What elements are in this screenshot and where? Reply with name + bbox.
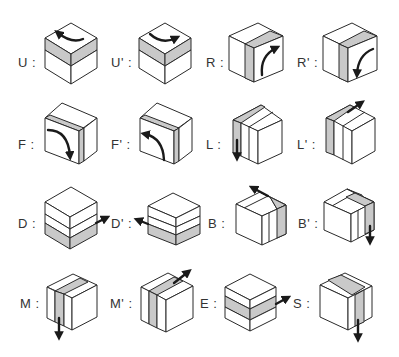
cube-b [236, 188, 286, 245]
cube-m [47, 274, 97, 336]
notation-diagram: U : U' : R : R' : F : F' : L : L' : D : … [0, 0, 399, 357]
cube-b-prime [324, 189, 374, 242]
arrow-right-icon [276, 298, 287, 304]
cube-l [233, 105, 282, 164]
cube-r-prime [323, 23, 377, 82]
cube-m-prime [141, 272, 193, 332]
cube-f-prime [140, 103, 192, 164]
cube-u [45, 23, 97, 84]
cube-r [229, 23, 283, 82]
cube-l-prime [326, 103, 375, 164]
cube-d-prime [138, 193, 200, 245]
cube-f [45, 103, 97, 164]
cube-d [45, 187, 106, 249]
cubes-canvas [0, 0, 399, 357]
cube-u-prime [139, 23, 191, 84]
arrow-left-icon [138, 220, 148, 224]
cube-e [225, 274, 287, 331]
cube-s [320, 273, 372, 338]
